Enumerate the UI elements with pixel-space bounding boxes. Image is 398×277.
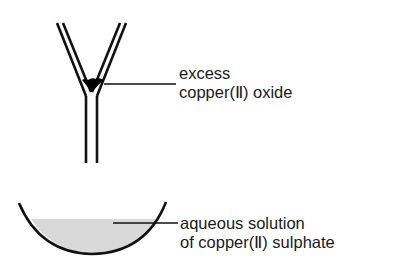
label-copper-oxide-line2: copper(Ⅱ) oxide: [179, 83, 292, 102]
label-copper-oxide-line1: excess: [179, 64, 292, 83]
label-copper-sulphate: aqueous solution of copper(Ⅱ) sulphate: [180, 214, 335, 252]
copper-sulphate-solution: [31, 219, 156, 253]
filter-funnel: [57, 23, 126, 163]
label-copper-oxide: excess copper(Ⅱ) oxide: [179, 64, 292, 102]
label-copper-sulphate-line1: aqueous solution: [180, 214, 335, 233]
label-copper-sulphate-line2: of copper(Ⅱ) sulphate: [180, 233, 335, 252]
